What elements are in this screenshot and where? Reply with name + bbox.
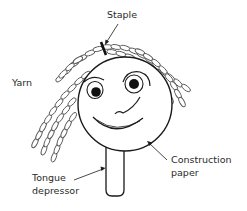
yarn-label: Yarn: [12, 77, 32, 89]
construction-paper-label-line1: Construction: [171, 154, 232, 166]
tongue-depressor-label-line2: depressor: [32, 185, 79, 197]
puppet-diagram: Staple Yarn Construction paper Tongue de…: [0, 0, 247, 211]
tongue-depressor: [106, 146, 124, 196]
staple-label: Staple: [107, 9, 137, 21]
construction-paper-label-line2: paper: [171, 167, 199, 179]
construction-paper-face: [78, 57, 172, 151]
tongue-depressor-label-line1: Tongue: [32, 172, 66, 184]
